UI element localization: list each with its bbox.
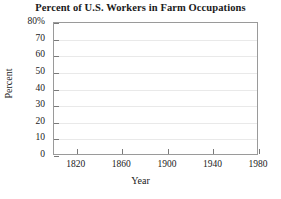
y-tick-mark xyxy=(54,106,59,107)
chart-title: Percent of U.S. Workers in Farm Occupati… xyxy=(0,2,281,13)
y-tick-label: 70 xyxy=(5,34,45,44)
y-tick-label: 50 xyxy=(5,67,45,77)
x-tick-label: 1980 xyxy=(238,160,278,170)
x-tick-label: 1860 xyxy=(101,160,141,170)
gridline xyxy=(54,139,257,140)
x-tick-label: 1940 xyxy=(192,160,232,170)
y-tick-label: 40 xyxy=(5,84,45,94)
y-tick-mark xyxy=(54,40,59,41)
x-tick-mark xyxy=(77,149,78,154)
y-tick-mark xyxy=(54,56,59,57)
gridline xyxy=(54,123,257,124)
y-tick-label: 60 xyxy=(5,50,45,60)
gridline xyxy=(54,106,257,107)
y-tick-label: 20 xyxy=(5,117,45,127)
gridline xyxy=(54,56,257,57)
x-tick-label: 1900 xyxy=(147,160,187,170)
y-tick-mark xyxy=(54,73,59,74)
x-tick-mark xyxy=(122,149,123,154)
y-tick-mark xyxy=(54,23,59,24)
y-tick-mark xyxy=(54,156,59,157)
x-tick-mark xyxy=(259,149,260,154)
x-axis-title: Year xyxy=(0,175,281,186)
y-tick-mark xyxy=(54,90,59,91)
y-tick-label: 30 xyxy=(5,100,45,110)
x-tick-label: 1820 xyxy=(56,160,96,170)
gridline xyxy=(54,40,257,41)
chart-container: Percent of U.S. Workers in Farm Occupati… xyxy=(0,0,281,199)
x-tick-mark xyxy=(213,149,214,154)
plot-area xyxy=(53,22,258,155)
y-tick-label: 10 xyxy=(5,133,45,143)
x-tick-mark xyxy=(168,149,169,154)
gridline xyxy=(54,90,257,91)
y-tick-mark xyxy=(54,123,59,124)
y-tick-mark xyxy=(54,139,59,140)
gridline xyxy=(54,73,257,74)
y-tick-label: 0 xyxy=(5,150,45,160)
y-tick-label: 80% xyxy=(5,17,45,27)
